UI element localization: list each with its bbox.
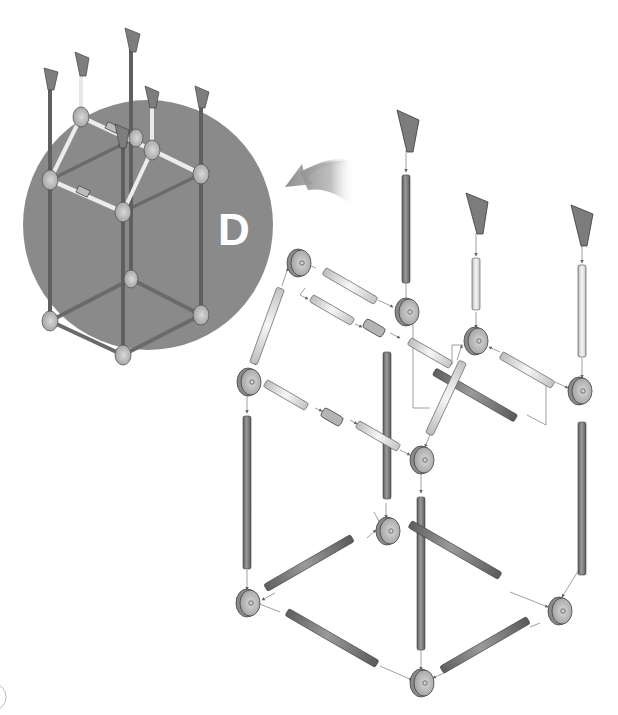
inset-preview: D [23, 28, 273, 365]
connector [237, 368, 261, 396]
cap [397, 110, 419, 152]
page-marker [0, 683, 6, 711]
cap [571, 205, 593, 246]
couplers [320, 318, 386, 427]
connector [464, 327, 488, 355]
light-diagonal-rods [250, 268, 555, 452]
dark-vertical-rods [243, 175, 586, 650]
connector-discs [236, 249, 592, 697]
connector [548, 597, 572, 625]
light-vertical-rod [472, 258, 480, 310]
guide-lines [247, 150, 582, 680]
connector [236, 589, 260, 617]
connector [287, 249, 311, 277]
dark-diagonal-rods [264, 368, 531, 673]
connector [568, 377, 592, 405]
connector [410, 669, 434, 697]
connector [410, 446, 434, 474]
connector [376, 517, 400, 545]
cap [466, 193, 488, 234]
top-caps [397, 110, 593, 246]
exploded-view [236, 110, 593, 697]
direction-arrow-shaft [300, 160, 356, 208]
connector [395, 298, 419, 326]
assembly-diagram: D [0, 0, 618, 715]
step-label: D [218, 205, 250, 254]
